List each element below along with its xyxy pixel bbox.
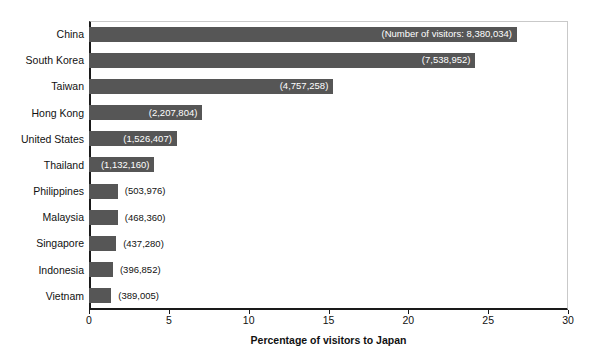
y-axis-label: Singapore [0, 230, 84, 256]
x-axis-tick-label: 15 [323, 314, 335, 326]
x-axis-ticks: 051015202530 [89, 310, 568, 324]
bar-row: (389,005) [89, 283, 568, 309]
bar-row: (1,132,160) [89, 152, 568, 178]
y-axis-label: South Korea [0, 47, 84, 73]
bar[interactable] [89, 262, 113, 277]
y-axis-label: United States [0, 126, 84, 152]
bar-row: (396,852) [89, 257, 568, 283]
y-axis-label: Thailand [0, 152, 84, 178]
x-axis-tick-label: 0 [86, 314, 92, 326]
bar[interactable] [89, 236, 116, 251]
bar-data-label: (503,976) [125, 186, 166, 196]
bar-data-label: (1,132,160) [98, 160, 153, 170]
y-axis-label: Malaysia [0, 204, 84, 230]
x-axis-tick-label: 25 [482, 314, 494, 326]
bar-rows: (Number of visitors: 8,380,034)(7,538,95… [89, 21, 568, 309]
bar-data-label: (Number of visitors: 8,380,034) [379, 29, 515, 39]
bar-row: (7,538,952) [89, 47, 568, 73]
y-axis-label: Vietnam [0, 283, 84, 309]
bar-chart: ChinaSouth KoreaTaiwanHong KongUnited St… [0, 0, 592, 361]
bar[interactable] [89, 288, 111, 303]
bar-data-label: (1,526,407) [120, 134, 175, 144]
y-axis-category-labels: ChinaSouth KoreaTaiwanHong KongUnited St… [0, 21, 84, 309]
bar-data-label: (396,852) [120, 265, 161, 275]
y-axis-label: Taiwan [0, 73, 84, 99]
bar-data-label: (437,280) [123, 239, 164, 249]
bar[interactable] [89, 53, 475, 68]
bar-data-label: (468,360) [125, 213, 166, 223]
bar-row: (437,280) [89, 230, 568, 256]
x-axis-title: Percentage of visitors to Japan [89, 334, 568, 346]
bar-data-label: (389,005) [118, 291, 159, 301]
bar[interactable] [89, 210, 118, 225]
bar-row: (503,976) [89, 178, 568, 204]
y-axis-label: Hong Kong [0, 100, 84, 126]
bar[interactable] [89, 184, 118, 199]
bar-row: (Number of visitors: 8,380,034) [89, 21, 568, 47]
chart-title [0, 0, 592, 12]
bar-data-label: (7,538,952) [419, 56, 474, 66]
bar-row: (468,360) [89, 204, 568, 230]
x-axis-tick-label: 20 [402, 314, 414, 326]
y-axis-label: China [0, 21, 84, 47]
y-axis-label: Philippines [0, 178, 84, 204]
x-axis-tick-label: 5 [166, 314, 172, 326]
x-axis-tick-label: 30 [562, 314, 574, 326]
bar-row: (4,757,258) [89, 73, 568, 99]
bar-row: (1,526,407) [89, 126, 568, 152]
bar-data-label: (4,757,258) [277, 82, 332, 92]
bar-row: (2,207,804) [89, 100, 568, 126]
y-axis-label: Indonesia [0, 257, 84, 283]
x-axis-tick-label: 10 [243, 314, 255, 326]
bar-data-label: (2,207,804) [146, 108, 201, 118]
